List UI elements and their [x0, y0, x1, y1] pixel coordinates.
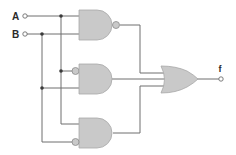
input-label-b: B: [12, 29, 19, 40]
junction-a-mid: [59, 69, 63, 73]
junction-b-top: [40, 32, 44, 36]
junction-a-top: [59, 14, 63, 18]
junction-b-mid: [40, 86, 44, 90]
input-terminal-a: [23, 14, 27, 18]
or-gate-4: [161, 66, 198, 93]
inverter-bubble-icon: [72, 139, 79, 146]
output-terminal-f: [219, 77, 223, 81]
wire-b: [27, 34, 80, 142]
inverter-bubble-icon: [72, 68, 79, 75]
input-terminal-b: [23, 32, 27, 36]
inverter-bubble-icon: [113, 22, 120, 29]
nand-gate-1: [79, 10, 120, 40]
and-gate-3: [72, 118, 112, 148]
logic-circuit-diagram: A B: [0, 0, 236, 155]
output-label-f: f: [219, 64, 223, 74]
input-label-a: A: [12, 11, 19, 22]
and-gate-2: [72, 64, 112, 94]
